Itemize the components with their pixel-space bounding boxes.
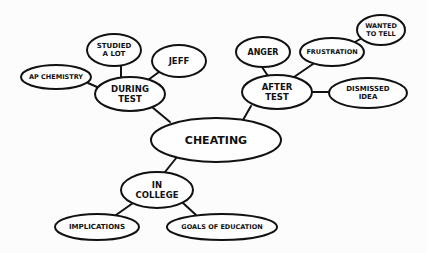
node-label: A LOT bbox=[103, 50, 126, 58]
node-after-test: AFTERTEST bbox=[242, 75, 312, 109]
mind-map-diagram: CHEATINGDURINGTESTAFTERTESTINCOLLEGEAP C… bbox=[0, 0, 427, 253]
node-anger: ANGER bbox=[236, 37, 290, 67]
node-during-test: DURINGTEST bbox=[95, 77, 165, 111]
node-label: ANGER bbox=[247, 48, 278, 57]
node-label: AP CHEMISTRY bbox=[29, 73, 83, 81]
node-goals-of-education: GOALS OF EDUCATION bbox=[167, 214, 277, 240]
node-label: COLLEGE bbox=[136, 190, 179, 200]
node-implications: IMPLICATIONS bbox=[55, 214, 139, 240]
node-label: DISMISSED bbox=[346, 85, 390, 93]
concept-nodes: CHEATINGDURINGTESTAFTERTESTINCOLLEGEAP C… bbox=[21, 15, 407, 240]
edge-during-test-to-jeff bbox=[148, 72, 159, 80]
node-label: DURING bbox=[111, 84, 149, 94]
node-label: FRUSTRATION bbox=[306, 48, 357, 56]
node-label: TEST bbox=[118, 94, 142, 104]
node-wanted-to-tell: WANTEDTO TELL bbox=[357, 15, 405, 45]
node-label: CHEATING bbox=[185, 134, 247, 147]
edge-in-college-to-goals-of-education bbox=[183, 203, 196, 215]
edge-during-test-to-ap-chemistry bbox=[88, 83, 97, 87]
node-frustration: FRUSTRATION bbox=[300, 38, 364, 66]
node-studied-a-lot: STUDIEDA LOT bbox=[87, 34, 141, 66]
node-jeff: JEFF bbox=[152, 45, 206, 77]
edge-cheating-to-after-test bbox=[243, 106, 251, 120]
node-in-college: INCOLLEGE bbox=[121, 172, 193, 208]
node-ap-chemistry: AP CHEMISTRY bbox=[21, 65, 91, 89]
edge-in-college-to-implications bbox=[116, 203, 133, 215]
node-label: IN bbox=[152, 180, 162, 190]
node-label: WANTED bbox=[365, 22, 397, 30]
node-label: STUDIED bbox=[97, 42, 132, 50]
node-label: TO TELL bbox=[366, 30, 395, 38]
node-dismissed-idea: DISMISSEDIDEA bbox=[329, 78, 407, 108]
edge-cheating-to-during-test bbox=[152, 107, 170, 122]
node-label: IDEA bbox=[359, 93, 378, 101]
edge-after-test-to-frustration bbox=[294, 64, 313, 77]
node-label: AFTER bbox=[262, 82, 293, 92]
node-label: IMPLICATIONS bbox=[69, 223, 125, 231]
node-label: JEFF bbox=[168, 56, 190, 66]
node-label: TEST bbox=[265, 92, 289, 102]
node-label: GOALS OF EDUCATION bbox=[181, 223, 262, 231]
node-cheating: CHEATING bbox=[151, 118, 281, 162]
edge-cheating-to-in-college bbox=[165, 157, 177, 172]
